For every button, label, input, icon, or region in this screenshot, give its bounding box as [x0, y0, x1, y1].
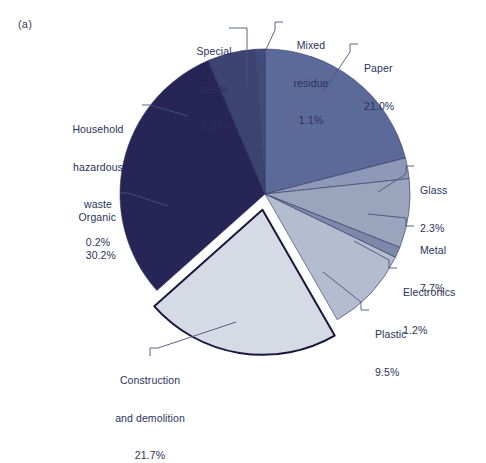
label-glass-line1: Glass	[420, 184, 480, 197]
label-plastic-line1: Plastic	[375, 328, 437, 341]
label-mixed-residue-line1: Mixed	[278, 39, 344, 52]
label-household-line1: Household	[58, 123, 138, 136]
label-plastic-line2: 9.5%	[375, 366, 437, 379]
label-paper-line1: Paper	[364, 62, 434, 75]
label-paper-line2: 21.0%	[364, 100, 434, 113]
label-household-line2: hazardous	[58, 161, 138, 174]
label-special-waste-line3: 5.1%	[178, 120, 250, 133]
label-mixed-residue-line2: residue	[278, 77, 344, 90]
label-mixed-residue-line3: 1.1%	[278, 114, 344, 127]
label-paper: Paper 21.0%	[364, 37, 434, 137]
label-special-waste-line2: waste	[178, 83, 250, 96]
label-mixed-residue: Mixed residue 1.1%	[278, 14, 344, 152]
label-metal-line1: Metal	[420, 244, 480, 257]
label-special-waste: Special waste 5.1%	[178, 20, 250, 158]
label-household-line3: waste	[58, 198, 138, 211]
label-construction-line3: 21.7%	[68, 449, 232, 462]
label-electronics-line1: Electronics	[403, 286, 483, 299]
label-construction-line1: Construction	[68, 374, 232, 387]
label-household: Household hazardous waste 0.2%	[58, 98, 138, 273]
label-household-line4: 0.2%	[58, 236, 138, 249]
label-special-waste-line1: Special	[178, 45, 250, 58]
label-construction: Construction and demolition 21.7%	[68, 349, 232, 463]
label-construction-line2: and demolition	[68, 412, 232, 425]
label-plastic: Plastic 9.5%	[375, 303, 437, 403]
